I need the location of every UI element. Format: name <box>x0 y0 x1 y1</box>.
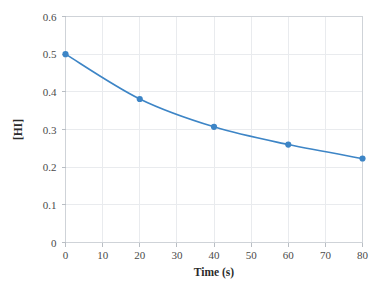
x-tick-label: 10 <box>97 249 109 261</box>
y-tick-label: 0.5 <box>43 48 57 60</box>
y-tick-label: 0 <box>51 237 57 249</box>
y-tick-label: 0.2 <box>43 161 57 173</box>
data-point-marker <box>359 155 365 161</box>
x-tick-label: 60 <box>283 249 295 261</box>
chart-container: 01020304050607080 00.10.20.30.40.50.6 Ti… <box>0 0 380 290</box>
y-tick-label: 0.4 <box>43 86 57 98</box>
y-tick-label: 0.3 <box>43 124 57 136</box>
chart-background <box>0 0 380 290</box>
y-tick-label: 0.1 <box>43 199 57 211</box>
x-tick-label: 70 <box>320 249 332 261</box>
data-point-marker <box>285 141 291 147</box>
data-point-marker <box>211 124 217 130</box>
concentration-vs-time-line-chart: 01020304050607080 00.10.20.30.40.50.6 Ti… <box>0 0 380 290</box>
data-point-marker <box>62 51 68 57</box>
x-axis-title: Time (s) <box>194 266 235 279</box>
x-tick-label: 20 <box>134 249 146 261</box>
x-tick-label: 50 <box>246 249 258 261</box>
x-tick-label: 80 <box>357 249 369 261</box>
x-tick-label: 30 <box>171 249 183 261</box>
y-axis-title: [HI] <box>12 119 24 140</box>
x-tick-label: 40 <box>209 249 221 261</box>
x-tick-label: 0 <box>63 249 69 261</box>
y-tick-label: 0.6 <box>43 11 57 23</box>
data-point-marker <box>137 96 143 102</box>
